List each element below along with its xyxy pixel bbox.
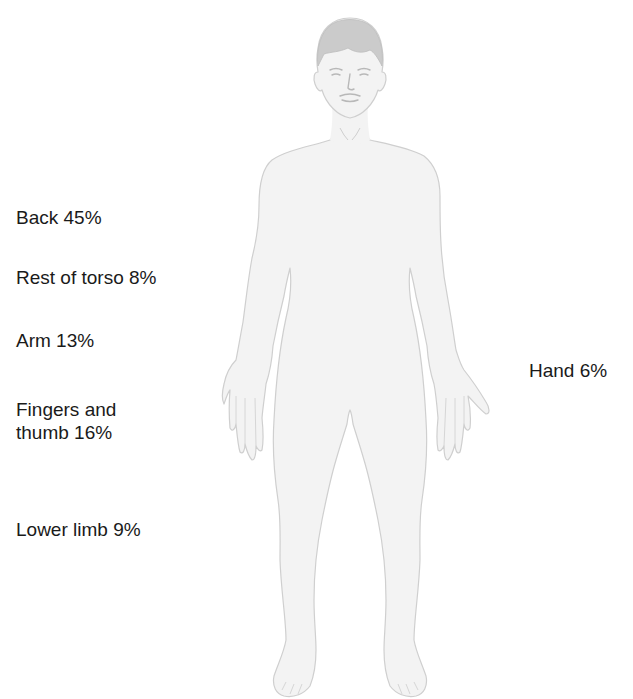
body-silhouette [223,118,490,697]
label-fingers-and-thumb: Fingers and thumb 16% [16,398,156,444]
body-diagram: Back 45% Rest of torso 8% Arm 13% Finger… [0,0,633,699]
label-arm: Arm 13% [16,329,94,352]
label-lower-limb: Lower limb 9% [16,518,141,541]
label-back: Back 45% [16,206,102,229]
label-fingers-line1: Fingers and [16,398,156,421]
label-hand: Hand 6% [529,359,607,382]
label-rest-of-torso: Rest of torso 8% [16,266,156,289]
human-body-illustration [0,0,633,699]
label-fingers-line2: thumb 16% [16,421,156,444]
